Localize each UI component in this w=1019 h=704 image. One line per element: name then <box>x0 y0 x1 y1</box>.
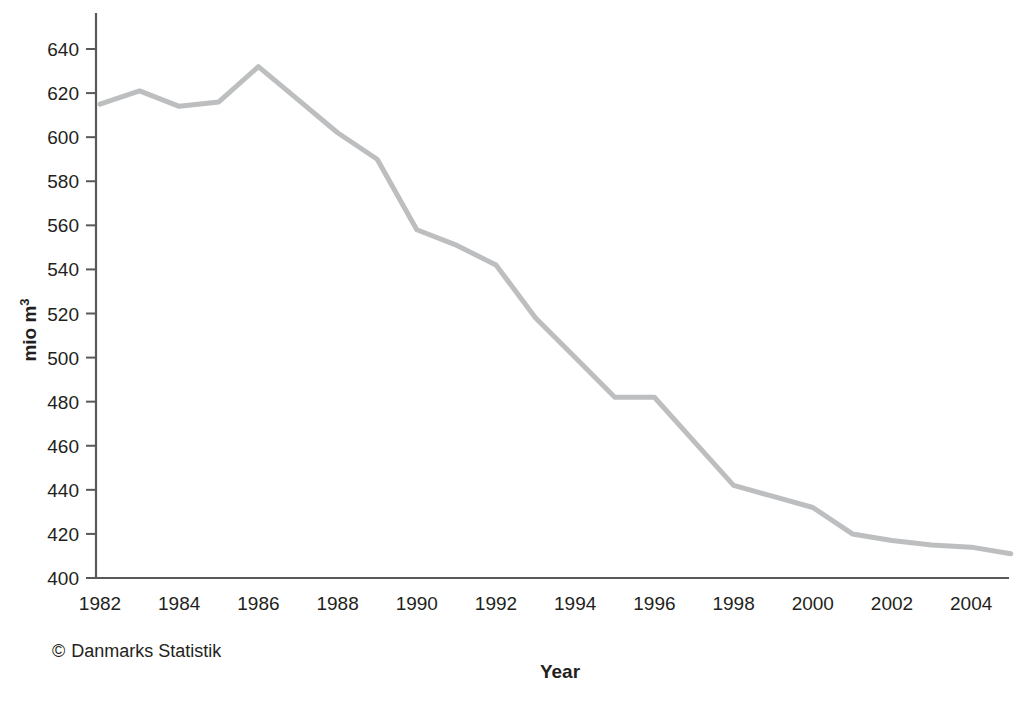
y-axis-tick-labels: 400420440460480500520540560580600620640 <box>47 39 79 589</box>
y-tick-label: 560 <box>47 215 79 236</box>
y-tick-label: 600 <box>47 127 79 148</box>
copyright-text: Danmarks Statistik <box>71 641 222 661</box>
x-tick-label: 1986 <box>237 593 279 614</box>
x-tick-label: 2004 <box>950 593 993 614</box>
x-tick-label: 2000 <box>792 593 834 614</box>
y-tick-label: 500 <box>47 348 79 369</box>
copyright-symbol: © <box>52 641 65 661</box>
y-tick-label: 400 <box>47 568 79 589</box>
x-tick-label: 1984 <box>158 593 201 614</box>
y-tick-label: 540 <box>47 259 79 280</box>
y-tick-label: 440 <box>47 480 79 501</box>
x-tick-label: 1982 <box>79 593 121 614</box>
y-tick-label: 580 <box>47 171 79 192</box>
line-chart-figure: 400420440460480500520540560580600620640 … <box>0 0 1019 704</box>
y-tick-label: 640 <box>47 39 79 60</box>
x-tick-label: 1992 <box>475 593 517 614</box>
x-axis-title: Year <box>540 661 581 682</box>
axis-tick-marks <box>86 49 96 578</box>
y-tick-label: 620 <box>47 83 79 104</box>
x-tick-label: 1990 <box>396 593 438 614</box>
copyright-credit: ©Danmarks Statistik <box>52 641 222 661</box>
x-tick-label: 1998 <box>712 593 754 614</box>
y-tick-label: 460 <box>47 436 79 457</box>
x-tick-label: 2002 <box>871 593 913 614</box>
y-axis-title-text: mio m <box>19 306 40 362</box>
y-axis-title: mio m3 <box>17 298 40 361</box>
x-tick-label: 1988 <box>316 593 358 614</box>
y-tick-label: 520 <box>47 304 79 325</box>
y-axis-title-superscript: 3 <box>17 298 32 305</box>
y-tick-label: 480 <box>47 392 79 413</box>
x-tick-label: 1996 <box>633 593 675 614</box>
x-axis-tick-labels: 1982198419861988199019921994199619982000… <box>79 593 993 614</box>
chart-plot-area: 400420440460480500520540560580600620640 … <box>0 0 1019 704</box>
y-tick-label: 420 <box>47 524 79 545</box>
x-tick-label: 1994 <box>554 593 597 614</box>
data-series-line <box>100 67 1011 554</box>
